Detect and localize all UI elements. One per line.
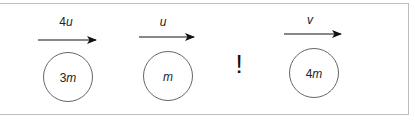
exclamation-icon: ! bbox=[235, 49, 242, 79]
mass-label-1: 3m bbox=[60, 71, 77, 85]
velocity-label-3: v bbox=[307, 13, 314, 27]
body-2: u m bbox=[139, 15, 194, 101]
mass-label-3: 4m bbox=[306, 67, 323, 81]
body-1: 4u 3m bbox=[38, 15, 96, 102]
collision-diagram: 4u 3m u m ! v 4m bbox=[0, 0, 415, 120]
body-3: v 4m bbox=[284, 13, 341, 98]
mass-label-2: m bbox=[163, 70, 173, 84]
velocity-label-2: u bbox=[160, 15, 167, 29]
velocity-label-1: 4u bbox=[59, 15, 73, 29]
